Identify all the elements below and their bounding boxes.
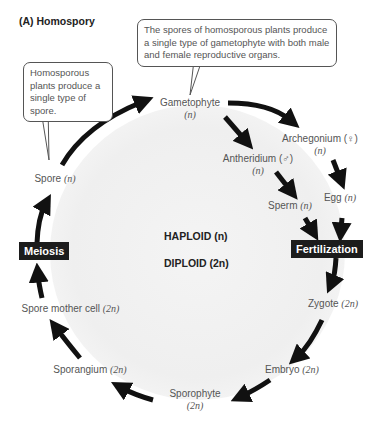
stage-antheridium: Antheridium (♂) (n)	[213, 153, 303, 177]
stage-gametophyte: Gametophyte (n)	[155, 97, 225, 121]
arrow-zygote-to-embryo	[298, 320, 322, 356]
callout-homosporous-gametophyte: The spores of homosporous plants produce…	[137, 19, 337, 67]
callout-homosporous-spore: Homosporous plants produce a single type…	[23, 62, 113, 122]
arrow-embryo-to-sporophyte	[242, 380, 270, 396]
arrow-archegonium-to-egg	[333, 160, 340, 178]
stage-sporophyte: Sporophyte (2n)	[160, 388, 230, 412]
stage-spore: Spore (n)	[30, 173, 80, 185]
arrow-egg-to-fertilization	[341, 218, 342, 230]
stage-zygote: Zygote (2n)	[298, 298, 368, 310]
event-meiosis: Meiosis	[19, 242, 69, 260]
stage-embryo: Embryo (2n)	[256, 364, 328, 376]
arrow-fertilization-to-zygote	[332, 258, 336, 282]
arrow-spore-mother-cell-to-meiosis	[38, 275, 42, 298]
arrow-sporophyte-to-sporangium	[122, 388, 153, 400]
stage-spore-mother-cell: Spore mother cell (2n)	[18, 303, 123, 315]
event-fertilization: Fertilization	[291, 240, 363, 258]
stage-sporangium: Sporangium (2n)	[50, 364, 130, 376]
arrow-gametophyte-to-archegonium	[228, 103, 290, 120]
arrow-gametophyte-to-antheridium	[225, 117, 245, 140]
phase-haploid: HAPLOID (n)	[164, 230, 228, 242]
stage-sperm: Sperm (n)	[262, 200, 318, 212]
phase-diploid: DIPLOID (2n)	[164, 257, 229, 269]
arrow-sperm-to-fertilization	[305, 218, 312, 230]
stage-egg: Egg (n)	[318, 192, 362, 204]
arrow-meiosis-to-spore	[37, 205, 45, 243]
arrow-sporangium-to-spore-mother-cell	[57, 329, 80, 358]
